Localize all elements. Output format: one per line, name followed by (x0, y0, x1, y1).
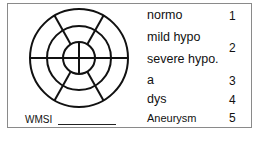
legend-score-4: 4 (229, 93, 236, 107)
legend-score-2: 2 (229, 41, 236, 55)
legend-label-dys: dys (147, 92, 166, 106)
legend-score-3: 3 (229, 74, 236, 88)
wmsi-label: WMSI (25, 114, 52, 125)
legend-score-1: 1 (229, 9, 236, 23)
legend-label-normo: normo (147, 8, 182, 22)
legend-label-aneurysm: Aneurysm (147, 112, 197, 124)
legend-score-5: 5 (229, 111, 236, 125)
legend-label-severe-hypo: severe hypo. (147, 52, 219, 66)
wmsi-input-line[interactable] (58, 124, 116, 125)
legend-label-mild-hypo: mild hypo (147, 30, 201, 44)
legend-label-a: a (147, 73, 154, 87)
